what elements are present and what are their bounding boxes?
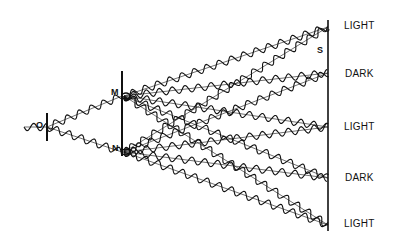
source-to-slit-wave-0-axis xyxy=(47,96,122,127)
slit-label-m: M xyxy=(111,87,119,97)
source-to-slit-wave-1-axis xyxy=(47,127,122,152)
slit-label-n: N xyxy=(112,143,119,153)
screen-label-s: S xyxy=(317,45,323,55)
diffracted-wave-1-0 xyxy=(124,28,329,153)
fringe-label-light-2: LIGHT xyxy=(344,121,374,132)
wave-drawing xyxy=(0,0,399,248)
diffracted-wave-0-4-axis xyxy=(124,96,328,225)
fringe-label-light-3: LIGHT xyxy=(344,218,374,229)
diffracted-wave-0-0 xyxy=(124,26,327,98)
fringe-label-dark-1: DARK xyxy=(345,68,374,79)
diffracted-wave-1-3-axis xyxy=(124,152,328,178)
fringe-label-dark-2: DARK xyxy=(345,172,374,183)
fringe-label-light-1: LIGHT xyxy=(344,20,374,31)
source-label-o: O xyxy=(36,120,43,130)
interference-diagram: O M N S LIGHT DARK LIGHT DARK LIGHT xyxy=(0,0,399,248)
diffracted-wave-0-0-axis xyxy=(124,27,328,96)
